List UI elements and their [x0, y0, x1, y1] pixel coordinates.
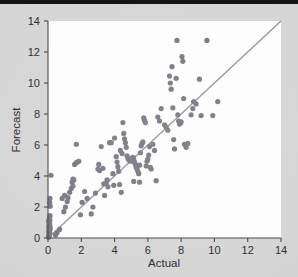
scatter-point	[120, 120, 125, 125]
scatter-point	[169, 64, 174, 69]
x-axis-ticks: 02468101214	[45, 238, 287, 256]
scatter-point	[171, 137, 176, 142]
scatter-point	[109, 140, 114, 145]
scatter-point	[179, 54, 184, 59]
scatter-point	[100, 166, 105, 171]
scatter-point	[123, 140, 128, 145]
y-tick-label: 2	[34, 201, 40, 213]
scatter-point	[204, 38, 209, 43]
scatter-point	[190, 106, 195, 111]
scatter-point	[70, 180, 75, 185]
scatter-point	[82, 189, 87, 194]
scatter-point	[111, 183, 116, 188]
scatter-point	[102, 193, 107, 198]
scatter-point	[57, 227, 62, 232]
scatter-point	[143, 120, 148, 125]
x-tick-label: 14	[275, 244, 287, 256]
scatter-point	[175, 112, 180, 117]
scatter-point	[114, 154, 119, 159]
scatter-point	[80, 200, 85, 205]
scatter-point	[117, 182, 122, 187]
scatter-point	[137, 163, 142, 168]
x-axis-title: Actual	[148, 257, 180, 269]
scatter-point	[85, 196, 90, 201]
y-tick-label: 8	[34, 108, 40, 120]
scatter-point	[131, 179, 136, 184]
scatter-point	[114, 159, 119, 164]
x-tick-label: 8	[178, 244, 184, 256]
scatter-point	[150, 142, 155, 147]
scatter-point	[105, 184, 110, 189]
y-axis-title: Forecast	[10, 107, 22, 153]
scatter-point	[172, 146, 177, 151]
x-tick-label: 0	[45, 244, 51, 256]
scatter-point	[61, 209, 66, 214]
scatter-point	[104, 177, 109, 182]
scatter-point	[170, 105, 175, 110]
scatter-point	[116, 169, 121, 174]
scatter-point	[119, 190, 124, 195]
scatter-point	[121, 131, 126, 136]
scatter-point	[93, 190, 98, 195]
scatter-point	[124, 145, 129, 150]
scatter-point	[154, 178, 159, 183]
scatter-point	[180, 59, 185, 64]
scatter-point	[119, 151, 124, 156]
x-tick-label: 6	[145, 244, 151, 256]
scatter-point	[136, 171, 141, 176]
scatter-point	[138, 150, 143, 155]
chart-canvas: 02468101214 02468101214 Actual Forecast	[0, 0, 298, 277]
y-tick-label: 14	[28, 15, 40, 27]
scatter-point	[194, 101, 199, 106]
scatter-point	[152, 148, 157, 153]
scatter-point	[167, 73, 172, 78]
scatter-point	[90, 204, 95, 209]
scatter-point	[174, 38, 179, 43]
scatter-point	[179, 119, 184, 124]
scatter-point	[157, 118, 162, 123]
scatter-point	[63, 204, 68, 209]
scatter-point	[165, 128, 170, 133]
scatter-point	[199, 113, 204, 118]
scatter-point	[62, 193, 67, 198]
scatter-point	[115, 164, 120, 169]
scatter-point	[181, 96, 186, 101]
scatter-point	[168, 80, 173, 85]
scatter-point	[99, 144, 104, 149]
scatter-plot-figure: 02468101214 02468101214 Actual Forecast	[0, 0, 298, 277]
scatter-point	[48, 173, 53, 178]
x-tick-label: 12	[242, 244, 254, 256]
y-tick-label: 12	[28, 46, 40, 58]
scatter-point	[169, 87, 174, 92]
scatter-point	[197, 77, 202, 82]
scatter-point	[74, 142, 79, 147]
scatter-point	[140, 139, 145, 144]
scatter-point	[149, 166, 154, 171]
scatter-point	[215, 99, 220, 104]
scatter-point	[137, 180, 142, 185]
scatter-point	[210, 113, 215, 118]
x-tick-label: 10	[208, 244, 220, 256]
y-tick-label: 6	[34, 139, 40, 151]
x-tick-label: 4	[112, 244, 118, 256]
scatter-point	[174, 76, 179, 81]
scatter-point	[112, 135, 117, 140]
y-tick-label: 10	[28, 77, 40, 89]
scatter-point	[189, 112, 194, 117]
y-tick-label: 4	[34, 170, 40, 182]
scatter-point	[146, 152, 151, 157]
scatter-point	[185, 141, 190, 146]
scatter-point	[159, 106, 164, 111]
scatter-point	[78, 212, 83, 217]
x-tick-label: 2	[78, 244, 84, 256]
scatter-point	[96, 162, 101, 167]
scatter-point	[89, 211, 94, 216]
y-tick-label: 0	[34, 232, 40, 244]
scatter-point	[110, 171, 115, 176]
y-axis-ticks: 02468101214	[28, 15, 48, 244]
scatter-point	[76, 159, 81, 164]
